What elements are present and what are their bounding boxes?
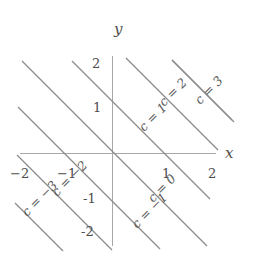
- contour-plot-canvas: [0, 0, 257, 279]
- contour-line-c1: [72, 61, 210, 199]
- contour-plot-figure: x y −2 −1 1 2 2 1 -1 -2 c = 3 c = 2 c = …: [0, 0, 257, 279]
- x-axis-label: x: [225, 146, 233, 161]
- y-tick-label-minus1: -1: [83, 192, 96, 205]
- x-tick-label-minus2: −2: [10, 167, 29, 180]
- y-axis-label: y: [114, 22, 122, 37]
- x-tick-label-2: 2: [208, 167, 216, 180]
- y-tick-label-1: 1: [93, 101, 101, 114]
- y-tick-label-minus2: -2: [81, 225, 94, 238]
- y-tick-label-2: 2: [92, 57, 100, 70]
